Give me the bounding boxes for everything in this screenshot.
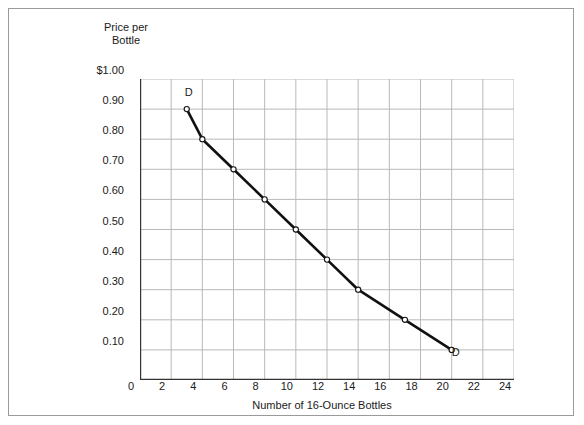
x-tick-label: 24: [485, 381, 525, 392]
x-axis-tick-labels: 024681012141618202224: [0, 0, 584, 425]
